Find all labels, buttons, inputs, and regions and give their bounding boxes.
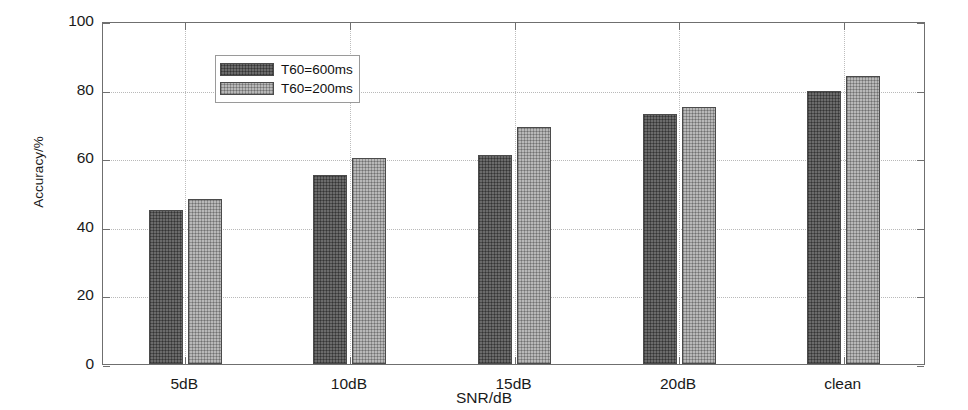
- bar-10db-series-1: [313, 175, 347, 364]
- x-axis-tick: [350, 357, 351, 364]
- y-axis-tick: [103, 297, 110, 298]
- y-axis-tick: [917, 160, 924, 161]
- legend-label-series-2: T60=200ms: [281, 81, 353, 96]
- gridline-horizontal: [103, 297, 924, 298]
- y-axis-tick: [917, 297, 924, 298]
- y-axis-tick: [917, 229, 924, 230]
- bar-10db-series-2: [352, 158, 386, 364]
- y-axis-tick: [103, 229, 110, 230]
- bar-20db-series-1: [643, 114, 677, 364]
- y-axis-tick-label: 60: [48, 149, 94, 167]
- y-axis-tick: [103, 366, 110, 367]
- x-axis-tick-label: 5dB: [139, 375, 229, 393]
- y-axis-tick: [103, 92, 110, 93]
- plot-area: T60=600ms T60=200ms: [102, 22, 925, 365]
- y-axis-tick-label: 100: [48, 12, 94, 30]
- bar-20db-series-2: [682, 107, 716, 364]
- x-axis-tick-label: 15dB: [469, 375, 559, 393]
- x-axis-tick-label: clean: [798, 375, 888, 393]
- x-axis-tick-label: 20dB: [633, 375, 723, 393]
- y-axis-tick-label: 0: [48, 355, 94, 373]
- gridline-vertical: [515, 23, 516, 364]
- gridline-vertical: [844, 23, 845, 364]
- y-axis-tick-label: 20: [48, 286, 94, 304]
- legend-swatch-series-1: [220, 63, 274, 76]
- bar-clean-series-2: [846, 76, 880, 364]
- x-axis-tick: [844, 23, 845, 30]
- gridline-vertical: [185, 23, 186, 364]
- x-axis-tick: [679, 23, 680, 30]
- x-axis-tick: [679, 357, 680, 364]
- gridline-vertical: [679, 23, 680, 364]
- legend-item: T60=600ms: [220, 60, 353, 79]
- y-axis-tick: [917, 366, 924, 367]
- gridline-horizontal: [103, 160, 924, 161]
- x-axis-tick: [185, 357, 186, 364]
- y-axis-title: Accuracy/%: [31, 136, 46, 207]
- x-axis-tick: [515, 357, 516, 364]
- bar-15db-series-1: [478, 155, 512, 364]
- x-axis-tick: [185, 23, 186, 30]
- bar-5db-series-1: [149, 210, 183, 364]
- x-axis-tick-label: 10dB: [304, 375, 394, 393]
- legend-swatch-series-2: [220, 82, 274, 95]
- bar-5db-series-2: [188, 199, 222, 364]
- bar-clean-series-1: [807, 91, 841, 364]
- y-axis-tick: [103, 160, 110, 161]
- y-axis-tick: [103, 23, 110, 24]
- legend-label-series-1: T60=600ms: [281, 62, 353, 77]
- chart-legend: T60=600ms T60=200ms: [215, 55, 360, 103]
- gridline-horizontal: [103, 229, 924, 230]
- bar-chart-figure: Accuracy/% SNR/dB 020406080100 5dB10dB15…: [0, 0, 968, 410]
- y-axis-tick: [917, 23, 924, 24]
- x-axis-tick: [350, 23, 351, 30]
- y-axis-tick-label: 80: [48, 81, 94, 99]
- x-axis-tick: [844, 357, 845, 364]
- bar-15db-series-2: [517, 127, 551, 364]
- legend-item: T60=200ms: [220, 79, 353, 98]
- y-axis-tick: [917, 92, 924, 93]
- y-axis-tick-label: 40: [48, 218, 94, 236]
- x-axis-tick: [515, 23, 516, 30]
